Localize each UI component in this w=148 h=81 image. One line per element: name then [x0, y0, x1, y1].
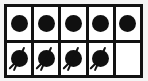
- ten-frame-cell-r2c4[interactable]: [89, 43, 116, 76]
- plain-dot-icon: [65, 15, 82, 32]
- ten-frame-cell-r1c5[interactable]: [116, 7, 140, 40]
- ten-frame-cell-r1c3[interactable]: [61, 7, 88, 40]
- dot-disc: [92, 15, 109, 32]
- dot-disc: [11, 15, 28, 32]
- stemmed-dot-icon: [92, 50, 109, 67]
- stemmed-dot-icon: [11, 50, 28, 67]
- plain-dot-icon: [92, 15, 109, 32]
- dot-disc: [38, 15, 55, 32]
- ten-frame-cell-r1c4[interactable]: [89, 7, 116, 40]
- ten-frame-cell-r2c2[interactable]: [34, 43, 61, 76]
- plain-dot-icon: [119, 15, 136, 32]
- stemmed-dot-icon: [65, 50, 82, 67]
- ten-frame-bottom-row: [7, 43, 140, 76]
- ten-frame-cell-r2c5[interactable]: [116, 43, 140, 76]
- ten-frame-cell-r1c2[interactable]: [34, 7, 61, 40]
- dot-disc: [119, 15, 136, 32]
- ten-frame-figure: [0, 0, 148, 81]
- plain-dot-icon: [38, 15, 55, 32]
- ten-frame-grid: [4, 4, 143, 78]
- dot-disc: [65, 15, 82, 32]
- stemmed-dot-icon: [38, 50, 55, 67]
- plain-dot-icon: [11, 15, 28, 32]
- ten-frame-cell-r1c1[interactable]: [7, 7, 34, 40]
- ten-frame-cell-r2c1[interactable]: [7, 43, 34, 76]
- ten-frame-top-row: [7, 7, 140, 43]
- ten-frame-cell-r2c3[interactable]: [61, 43, 88, 76]
